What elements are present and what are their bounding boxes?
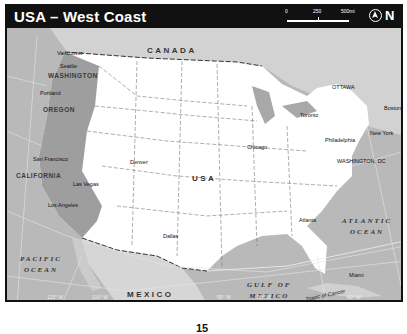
scale-label-250: 250 (313, 8, 321, 14)
city-dallas: Dallas (163, 233, 178, 239)
label-usa: USA (192, 174, 216, 183)
longitude-label: 90° W (257, 294, 271, 300)
compass-icon (369, 9, 382, 22)
label-pacific-ocean: PACIFIC OCEAN (20, 254, 62, 276)
city-portland: Portland (40, 90, 61, 96)
map-header: USA – West Coast 0 250 500mi N (7, 6, 401, 28)
north-arrow: N (369, 9, 397, 25)
city-miami: Miami (349, 272, 364, 278)
scale-label-500: 500mi (341, 8, 355, 14)
page-number: 15 (196, 322, 208, 334)
city-los-angeles: Los Angeles (48, 202, 78, 208)
longitude-label: 115° W (47, 294, 63, 300)
city-new-york: New York (370, 130, 393, 136)
city-chicago: Chicago (247, 144, 267, 150)
city-las-vegas: Las Vegas (73, 181, 99, 187)
longitude-label: 95° W (217, 294, 231, 300)
city-ottawa: OTTAWA (332, 84, 355, 90)
label-atlantic-ocean: ATLANTIC OCEAN (342, 216, 392, 238)
label-washington: WASHINGTON (48, 72, 98, 79)
scale-label-0: 0 (285, 8, 288, 14)
north-label: N (385, 8, 394, 23)
longitude-label: 110° W (92, 294, 108, 300)
scale-tick (318, 17, 319, 22)
map-frame: USA – West Coast 0 250 500mi N (5, 4, 403, 302)
city-atlanta: Atlanta (299, 217, 316, 223)
city-denver: Denver (130, 159, 148, 165)
city-washington-dc: WASHINGTON, DC (337, 158, 386, 164)
scale-bar: 0 250 500mi (281, 8, 361, 26)
city-toronto: Toronto (300, 112, 318, 118)
city-philadelphia: Philadelphia (325, 137, 355, 143)
city-san-francisco: San Francisco (33, 156, 68, 162)
map-title: USA – West Coast (14, 8, 146, 25)
city-boston: Boston (384, 105, 401, 111)
label-canada: CANADA (147, 46, 197, 55)
label-california: CALIFORNIA (16, 172, 61, 179)
label-oregon: OREGON (43, 106, 75, 113)
city-seattle: Seattle (60, 63, 77, 69)
label-mexico: MEXICO (127, 290, 174, 299)
longitude-label: 80° W (347, 294, 361, 300)
city-vancouver: Vancouver (57, 50, 83, 56)
